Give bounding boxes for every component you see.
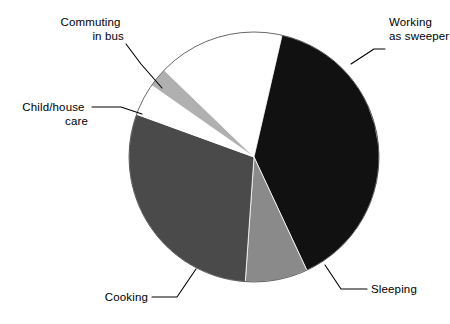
pie-chart-figure: Working as sweeper Sleeping Cooking Chil… <box>0 0 450 324</box>
label-sleeping: Sleeping <box>371 283 417 295</box>
pie-chart-canvas: Working as sweeper Sleeping Cooking Chil… <box>0 0 450 324</box>
label-cooking: Cooking <box>105 291 148 303</box>
